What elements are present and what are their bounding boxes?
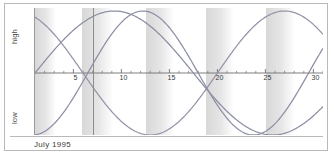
x-axis-tick-label: 20 — [215, 74, 223, 81]
date-caption: July 1995 — [34, 140, 71, 149]
y-axis-label-low: low — [10, 64, 19, 124]
x-axis-tick-label: 10 — [119, 74, 127, 81]
x-axis-tick-label: 5 — [73, 74, 77, 81]
y-axis-label-high: high — [10, 0, 19, 44]
x-axis-tick-label: 25 — [263, 74, 271, 81]
plot-area: 51015202530 — [34, 8, 323, 135]
x-axis-tick-label: 15 — [167, 74, 175, 81]
current-day-marker-line — [93, 8, 94, 135]
x-axis-tick-label: 30 — [311, 74, 319, 81]
biorhythm-curves — [35, 8, 323, 135]
chart-footer: July 1995 — [10, 136, 323, 153]
y-axis-label-gutter: high low — [10, 8, 32, 135]
chart-frame: high low 51015202530 July 1995 — [4, 3, 328, 151]
